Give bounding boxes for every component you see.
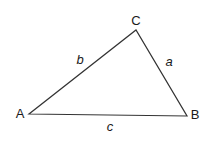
triangle-diagram: A B C a b c [0, 0, 204, 146]
side-label-b: b [76, 52, 83, 67]
side-label-a: a [165, 54, 172, 69]
triangle-shape [29, 30, 187, 116]
vertex-label-c: C [131, 13, 140, 28]
vertex-label-b: B [191, 107, 200, 122]
vertex-label-a: A [16, 106, 25, 121]
side-label-c: c [107, 119, 114, 134]
